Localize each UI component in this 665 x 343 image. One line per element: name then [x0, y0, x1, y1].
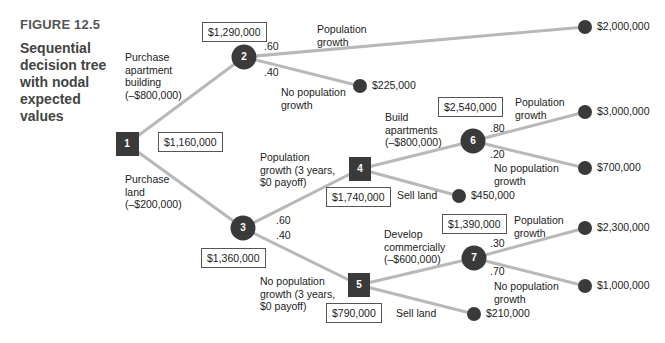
- payoff-n6-growth: $3,000,000: [597, 105, 650, 117]
- branch-label-n2-growth: Population growth: [317, 23, 367, 48]
- probability-n3-no-growth: .40: [276, 229, 291, 241]
- expected-value-node-4: $1,740,000: [326, 187, 391, 207]
- branch-label-n7-no-growth: No population growth: [494, 280, 559, 305]
- node-number: 6: [461, 135, 485, 146]
- endpoint-node: [578, 161, 592, 175]
- payoff-n4-sell-land: $450,000: [471, 189, 515, 201]
- endpoint-node: [452, 189, 466, 203]
- node-number: 2: [232, 51, 256, 62]
- expected-value-node-3: $1,360,000: [201, 248, 266, 268]
- branch-label-build-apartments: Build apartments (–$800,000): [385, 111, 442, 149]
- payoff-n6-no-growth: $700,000: [597, 161, 641, 173]
- node-number: 3: [231, 222, 255, 233]
- node-number: 7: [462, 252, 486, 263]
- probability-n2-growth: .60: [264, 40, 279, 52]
- expected-value-node-7: $1,390,000: [442, 214, 507, 234]
- probability-n3-growth: .60: [276, 214, 291, 226]
- endpoint-node: [467, 307, 481, 321]
- branch-label-n6-growth: Population growth: [515, 96, 565, 121]
- payoff-n2-growth: $2,000,000: [597, 20, 650, 32]
- endpoint-node: [578, 105, 592, 119]
- probability-n7-no-growth: .70: [490, 265, 505, 277]
- probability-n7-growth: .30: [490, 237, 505, 249]
- branch-label-n5-sell-land: Sell land: [396, 307, 436, 320]
- node-number: 5: [347, 279, 371, 290]
- expected-value-node-6: $2,540,000: [438, 97, 503, 117]
- endpoint-node: [578, 279, 592, 293]
- branch-label-n7-growth: Population growth: [514, 214, 564, 239]
- node-number: 1: [115, 138, 139, 149]
- payoff-n5-sell-land: $210,000: [486, 307, 530, 319]
- endpoint-node: [353, 79, 367, 93]
- branch-label-purchase-land: Purchase land (–$200,000): [125, 173, 182, 211]
- branch-label-n6-no-growth: No population growth: [494, 162, 559, 187]
- node-number: 4: [348, 163, 372, 174]
- expected-value-node-1: $1,160,000: [158, 132, 223, 152]
- branch-label-develop-commercially: Develop commercially (–$600,000): [384, 228, 445, 266]
- branch-label-n3-no-growth: No population growth (3 years, $0 payoff…: [260, 275, 335, 313]
- branch-label-n4-sell-land: Sell land: [397, 189, 437, 202]
- payoff-n7-no-growth: $1,000,000: [597, 279, 650, 291]
- probability-n6-no-growth: .20: [490, 148, 505, 160]
- probability-n2-no-growth: .40: [264, 66, 279, 78]
- expected-value-node-2: $1,290,000: [202, 22, 267, 42]
- payoff-n2-no-growth: $225,000: [372, 79, 416, 91]
- branch-label-n3-growth: Population growth (3 years, $0 payoff): [260, 151, 335, 189]
- payoff-n7-growth: $2,300,000: [597, 221, 650, 233]
- probability-n6-growth: .80: [490, 122, 505, 134]
- endpoint-node: [578, 20, 592, 34]
- branch-label-n2-no-growth: No population growth: [281, 86, 346, 111]
- endpoint-node: [578, 221, 592, 235]
- branch-label-purchase-apartment: Purchase apartment building (–$800,000): [125, 51, 182, 101]
